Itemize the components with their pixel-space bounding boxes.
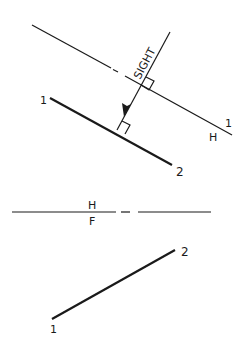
front-point-2: 2 [181, 245, 189, 259]
fold-label-h: H [209, 131, 217, 144]
sight-label: SIGHT [131, 45, 158, 81]
sight-line [117, 32, 170, 134]
fold-label-1: 1 [225, 117, 232, 130]
fold-label-f: F [89, 215, 95, 228]
sight-arrow-icon [122, 103, 131, 117]
aux-point-1: 1 [40, 94, 47, 107]
aux-line-1-2 [50, 98, 172, 165]
descriptive-geometry-diagram: VIEW 1 H SIGHT 1 2 H F 1 2 [0, 0, 246, 352]
aux-point-2: 2 [176, 165, 184, 179]
front-line-1-2 [52, 250, 175, 319]
front-point-1: 1 [50, 323, 57, 336]
partial-title: VIEW [16, 0, 51, 1]
fold-label-h-front: H [88, 199, 96, 212]
fold-line-h1 [32, 25, 232, 135]
